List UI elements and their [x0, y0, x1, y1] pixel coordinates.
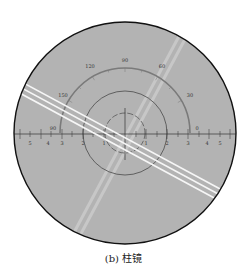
axis-label-left-5: 5 — [28, 140, 31, 146]
axis-label-right-4: 4 — [205, 140, 208, 146]
angle-label-30: 30 — [187, 92, 193, 98]
figure-caption: (b) 柱镜 — [0, 250, 247, 265]
axis-label-right-5: 5 — [218, 140, 221, 146]
angle-label-90: 90 — [122, 57, 128, 63]
angle-label-60: 60 — [159, 63, 165, 69]
axis-marker-label-left: 90 — [50, 125, 56, 131]
axis-label-left-3: 3 — [60, 140, 63, 146]
axis-label-right-3: 3 — [186, 140, 189, 146]
lensmeter-reticle-diagram: 90 120 60 150 30 5 4 3 2 1 1 2 3 4 5 90 … — [0, 0, 247, 269]
angle-label-120: 120 — [85, 63, 95, 69]
angle-label-150: 150 — [58, 92, 68, 98]
axis-label-left-1: 1 — [102, 140, 105, 146]
axis-label-right-1: 1 — [144, 140, 147, 146]
axis-label-left-4: 4 — [46, 140, 49, 146]
axis-label-left-2: 2 — [81, 140, 84, 146]
axis-label-right-2: 2 — [165, 140, 168, 146]
axis-marker-label-right: 0 — [195, 125, 198, 131]
